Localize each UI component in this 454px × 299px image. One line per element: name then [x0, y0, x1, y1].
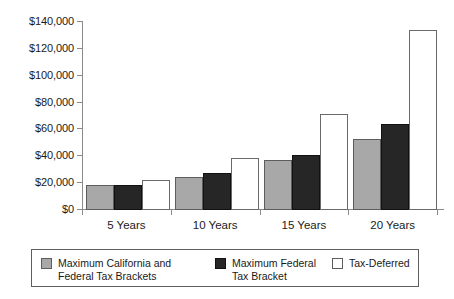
white-swatch	[332, 258, 343, 269]
y-tick-mark	[77, 128, 83, 129]
bar-0-1	[114, 185, 142, 210]
bar-0-2	[142, 180, 170, 210]
legend-item-1[interactable]: Maximum Federal Tax Bracket	[215, 257, 335, 282]
black-swatch	[215, 258, 226, 269]
legend-label-1: Maximum Federal Tax Bracket	[232, 257, 335, 282]
y-tick-label: $40,000	[0, 150, 74, 161]
y-tick-label: $80,000	[0, 97, 74, 108]
y-tick-label: $60,000	[0, 123, 74, 134]
legend: Maximum California and Federal Tax Brack…	[31, 249, 419, 287]
x-group-label-0: 5 Years	[82, 219, 171, 231]
bar-2-1	[292, 155, 320, 210]
x-group-label-1: 10 Years	[171, 219, 260, 231]
x-group-label-2: 15 Years	[260, 219, 349, 231]
y-tick-mark	[77, 182, 83, 183]
bar-chart: $0$20,000$40,000$60,000$80,000$100,000$1…	[0, 0, 454, 299]
bar-0-0	[86, 185, 114, 210]
legend-item-2[interactable]: Tax-Deferred	[332, 257, 432, 270]
bar-3-1	[381, 124, 409, 210]
y-tick-mark	[77, 155, 83, 156]
x-tick-mark	[171, 210, 172, 215]
y-tick-label: $120,000	[0, 43, 74, 54]
bar-1-0	[175, 177, 203, 210]
bar-3-2	[409, 30, 437, 210]
y-tick-label: $140,000	[0, 16, 74, 27]
legend-label-2: Tax-Deferred	[349, 257, 410, 270]
x-tick-mark	[348, 210, 349, 215]
bar-1-2	[231, 158, 259, 210]
x-tick-mark	[260, 210, 261, 215]
bar-1-1	[203, 173, 231, 210]
x-tick-mark	[437, 210, 438, 215]
bar-2-2	[320, 114, 348, 210]
legend-items: Maximum California and Federal Tax Brack…	[32, 250, 418, 286]
x-tick-mark	[82, 210, 83, 215]
y-tick-mark	[77, 21, 83, 22]
legend-label-0: Maximum California and Federal Tax Brack…	[58, 257, 201, 282]
y-tick-mark	[77, 48, 83, 49]
y-tick-label: $0	[0, 204, 74, 215]
plot-area: $0$20,000$40,000$60,000$80,000$100,000$1…	[0, 0, 454, 240]
legend-item-0[interactable]: Maximum California and Federal Tax Brack…	[41, 257, 201, 282]
gray-swatch	[41, 258, 52, 269]
y-tick-label: $100,000	[0, 70, 74, 81]
y-tick-mark	[77, 102, 83, 103]
bar-3-0	[353, 139, 381, 210]
x-group-label-3: 20 Years	[348, 219, 437, 231]
bar-2-0	[264, 160, 292, 210]
y-tick-label: $20,000	[0, 177, 74, 188]
y-tick-mark	[77, 75, 83, 76]
